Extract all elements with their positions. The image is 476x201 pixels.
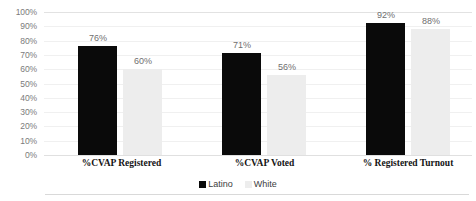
legend-item-white[interactable]: White xyxy=(245,179,277,189)
bottom-divider xyxy=(45,194,469,195)
x-axis-category-label: %CVAP Registered xyxy=(44,158,199,168)
y-axis-tick: 10% xyxy=(20,136,37,146)
y-axis-tick: 70% xyxy=(20,50,37,60)
y-axis: 100% 90% 80% 70% 60% 50% 40% 30% 20% 10%… xyxy=(0,12,40,155)
bar-value-label: 56% xyxy=(261,62,313,72)
legend-label: White xyxy=(254,179,277,189)
x-axis-labels: %CVAP Registered %CVAP Voted % Registere… xyxy=(44,158,472,174)
legend-label: Latino xyxy=(208,179,233,189)
y-axis-tick: 40% xyxy=(20,93,37,103)
bar-group: 92% 88% xyxy=(366,12,450,155)
legend-item-latino[interactable]: Latino xyxy=(199,179,233,189)
legend-swatch-icon xyxy=(245,181,252,188)
bar-value-label: 71% xyxy=(216,40,268,50)
bar-white[interactable]: 60% xyxy=(123,69,162,155)
y-axis-tick: 80% xyxy=(20,36,37,46)
bar-chart: 100% 90% 80% 70% 60% 50% 40% 30% 20% 10%… xyxy=(0,0,476,201)
bar-latino[interactable]: 76% xyxy=(78,46,117,155)
y-axis-tick: 100% xyxy=(16,7,37,17)
y-axis-tick: 30% xyxy=(20,107,37,117)
bars-layer: 76% 60% 71% 56% 92% 88% xyxy=(44,12,472,155)
y-axis-tick: 20% xyxy=(20,121,37,131)
bar-value-label: 60% xyxy=(117,56,169,66)
bar-group: 71% 56% xyxy=(222,12,306,155)
x-axis-category-label: % Registered Turnout xyxy=(329,158,476,168)
bar-white[interactable]: 88% xyxy=(411,29,450,155)
axis-baseline xyxy=(44,155,472,156)
bar-latino[interactable]: 71% xyxy=(222,53,261,155)
chart-legend: Latino White xyxy=(0,177,476,191)
y-axis-tick: 90% xyxy=(20,21,37,31)
legend-swatch-icon xyxy=(199,181,206,188)
x-axis-category-label: %CVAP Voted xyxy=(187,158,342,168)
bar-white[interactable]: 56% xyxy=(267,75,306,155)
y-axis-tick: 50% xyxy=(20,79,37,89)
y-axis-tick: 60% xyxy=(20,64,37,74)
bar-value-label: 88% xyxy=(405,16,457,26)
bar-value-label: 76% xyxy=(72,33,124,43)
bar-latino[interactable]: 92% xyxy=(366,23,405,155)
y-axis-tick: 0% xyxy=(25,150,37,160)
bar-group: 76% 60% xyxy=(78,12,162,155)
